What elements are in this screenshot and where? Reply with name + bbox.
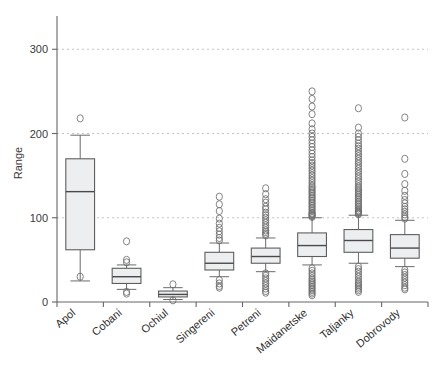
- x-axis-category-label: Singereni: [173, 306, 216, 345]
- outlier-point: [355, 105, 361, 112]
- x-axis-category-label: Maidanetske: [254, 306, 309, 355]
- boxplot-group: [66, 115, 95, 281]
- plot-area: 0100200300 ApolCobaniOchiulSingereniPetr…: [0, 0, 440, 377]
- box-series-group: [66, 88, 419, 304]
- outlier-point: [216, 201, 222, 208]
- boxplot-group: [298, 88, 327, 299]
- outlier-point: [309, 95, 315, 102]
- box-iqr: [298, 233, 327, 257]
- outlier-point: [402, 286, 408, 293]
- boxplot-group: [159, 281, 188, 304]
- outlier-point: [402, 114, 408, 121]
- boxplot-group: [251, 185, 280, 297]
- axes: [57, 16, 428, 302]
- outlier-point: [123, 290, 129, 297]
- outlier-point: [309, 88, 315, 95]
- boxplot-group: [205, 193, 234, 291]
- outlier-point: [402, 180, 408, 187]
- outlier-point: [402, 155, 408, 162]
- y-tick-label: 300: [30, 43, 48, 55]
- y-tick-label: 200: [30, 128, 48, 140]
- outlier-point: [123, 238, 129, 245]
- x-axis-category-label: Ochiul: [139, 306, 171, 335]
- box-iqr: [205, 252, 234, 270]
- x-axis-category-label: Apol: [53, 306, 78, 329]
- boxplot-group: [112, 238, 141, 297]
- outlier-point: [216, 193, 222, 200]
- y-axis-title: Range: [12, 147, 24, 179]
- outlier-point: [170, 281, 176, 288]
- outlier-point: [216, 207, 222, 214]
- boxplot-chart: 0100200300 ApolCobaniOchiulSingereniPetr…: [0, 0, 440, 377]
- y-tick-label: 0: [42, 296, 48, 308]
- x-axis-category-label: Cobani: [89, 306, 123, 338]
- box-iqr: [390, 235, 419, 259]
- y-tick-label: 100: [30, 212, 48, 224]
- box-iqr: [112, 268, 141, 283]
- outlier-point: [216, 220, 222, 227]
- boxplot-group: [390, 114, 419, 293]
- y-axis-ticks: 0100200300: [30, 43, 57, 308]
- x-axis-category-label: Petreni: [229, 306, 263, 338]
- outlier-point: [309, 103, 315, 110]
- x-axis-category-label: Taljanky: [318, 306, 357, 341]
- x-axis-ticks: ApolCobaniOchiulSingereniPetreniMaidanet…: [53, 302, 428, 356]
- outlier-point: [309, 111, 315, 118]
- box-iqr: [66, 159, 95, 250]
- box-iqr: [251, 248, 280, 263]
- x-axis-category-label: Dobrovody: [354, 306, 403, 350]
- gridlines: [57, 49, 428, 217]
- outlier-point: [77, 115, 83, 122]
- y-axis-title-text: Range: [12, 147, 24, 179]
- outlier-point: [263, 289, 269, 296]
- outlier-point: [216, 284, 222, 291]
- outlier-point: [402, 170, 408, 177]
- outlier-point: [402, 192, 408, 199]
